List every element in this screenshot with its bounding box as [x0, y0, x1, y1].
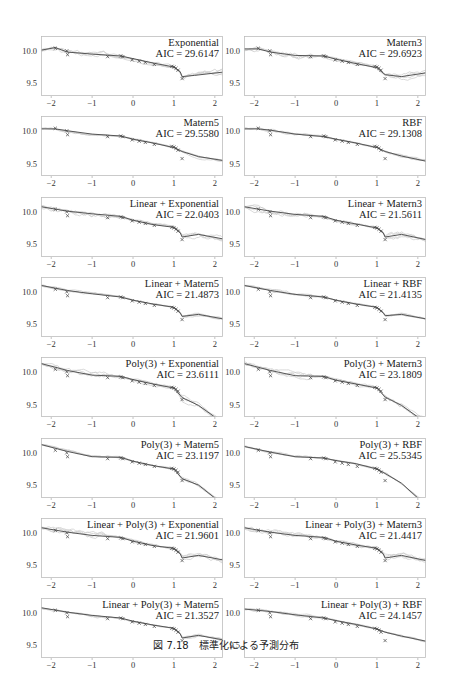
x-tick-label: 1: [166, 419, 182, 429]
panel-linear-poly-3-matern3: Linear + Poly(3) + Matern3AIC = 21.44179…: [244, 518, 426, 578]
observation-marker: [66, 294, 69, 297]
observation-marker: [309, 296, 312, 299]
aic-label: AIC = 23.1809: [359, 369, 422, 380]
aic-label: AIC = 24.1457: [359, 610, 422, 621]
x-tick-label: 1: [369, 500, 385, 510]
aic-label: AIC = 23.6111: [156, 369, 219, 380]
x-tick-label: 0: [125, 339, 141, 349]
x-tick-label: 0: [125, 580, 141, 590]
x-tick-label: −1: [287, 259, 303, 269]
panel-title: Matern3: [386, 37, 422, 48]
x-tick-label: −2: [246, 500, 262, 510]
y-tick-label: 10.0: [13, 608, 37, 618]
x-tick-label: 0: [125, 178, 141, 188]
observation-marker: [347, 462, 350, 465]
x-tick-label: 2: [207, 339, 223, 349]
observation-marker: [384, 478, 387, 481]
y-tick-label: 10.0: [13, 46, 37, 56]
panel-linear-matern3: Linear + Matern3AIC = 21.56119.510.0−2−1…: [244, 197, 426, 257]
y-tick-label: 9.5: [216, 159, 240, 169]
axes-frame: [245, 117, 426, 176]
aic-label: AIC = 21.5611: [359, 209, 422, 220]
x-tick-label: −2: [246, 580, 262, 590]
x-tick-label: −1: [84, 660, 100, 670]
x-tick-label: 0: [125, 259, 141, 269]
observation-marker: [309, 617, 312, 620]
observation-marker: [181, 157, 184, 160]
observation-marker: [106, 537, 109, 540]
y-tick-label: 10.0: [13, 448, 37, 458]
x-tick-label: −2: [43, 580, 59, 590]
x-tick-label: −1: [287, 98, 303, 108]
x-tick-label: 2: [410, 259, 426, 269]
observation-marker: [356, 464, 359, 467]
x-tick-label: 2: [410, 500, 426, 510]
y-tick-label: 9.5: [216, 480, 240, 490]
x-tick-label: 0: [328, 419, 344, 429]
x-tick-label: −1: [287, 660, 303, 670]
x-tick-label: −2: [43, 500, 59, 510]
observation-marker: [66, 133, 69, 136]
y-tick-label: 10.0: [216, 367, 240, 377]
aic-label: AIC = 21.9601: [156, 530, 219, 541]
panel-title: Poly(3) + Matern3: [344, 358, 422, 369]
x-tick-label: 0: [125, 500, 141, 510]
x-tick-label: 2: [207, 500, 223, 510]
x-tick-label: 2: [207, 419, 223, 429]
x-tick-label: −1: [84, 259, 100, 269]
observation-marker: [269, 214, 272, 217]
panel-linear-exponential: Linear + ExponentialAIC = 22.04039.510.0…: [41, 197, 223, 257]
observation-marker: [181, 559, 184, 562]
x-tick-label: 0: [125, 419, 141, 429]
observation-marker: [384, 77, 387, 80]
x-tick-label: 2: [410, 98, 426, 108]
x-tick-label: −2: [43, 259, 59, 269]
x-tick-label: 2: [410, 339, 426, 349]
x-tick-label: 1: [166, 580, 182, 590]
x-tick-label: −2: [43, 178, 59, 188]
panel-linear-rbf: Linear + RBFAIC = 21.41359.510.0−2−1012: [244, 277, 426, 337]
x-tick-label: 2: [207, 259, 223, 269]
observation-marker: [181, 238, 184, 241]
x-tick-label: −2: [246, 419, 262, 429]
panel-title: Linear + Matern3: [348, 198, 422, 209]
aic-label: AIC = 25.5345: [359, 450, 422, 461]
y-tick-label: 9.5: [216, 400, 240, 410]
x-tick-label: −2: [43, 98, 59, 108]
x-tick-label: 2: [207, 178, 223, 188]
x-tick-label: −2: [246, 98, 262, 108]
observation-marker: [66, 535, 69, 538]
panel-title: RBF: [402, 117, 422, 128]
y-tick-label: 10.0: [216, 207, 240, 217]
observation-marker: [384, 559, 387, 562]
aic-label: AIC = 29.6923: [359, 48, 422, 59]
x-tick-label: −1: [287, 419, 303, 429]
y-tick-label: 10.0: [13, 287, 37, 297]
x-tick-label: 0: [328, 178, 344, 188]
x-tick-label: 1: [369, 660, 385, 670]
y-tick-label: 10.0: [216, 608, 240, 618]
x-tick-label: −1: [84, 339, 100, 349]
y-tick-label: 9.5: [13, 319, 37, 329]
observation-marker: [384, 157, 387, 160]
x-tick-label: 1: [369, 259, 385, 269]
y-tick-label: 9.5: [216, 319, 240, 329]
panel-title: Poly(3) + RBF: [359, 439, 422, 450]
observation-marker: [269, 615, 272, 618]
plot-area: [244, 116, 426, 176]
x-tick-label: −2: [43, 339, 59, 349]
y-tick-label: 9.5: [13, 239, 37, 249]
y-tick-label: 10.0: [13, 126, 37, 136]
panel-poly-3-exponential: Poly(3) + ExponentialAIC = 23.61119.510.…: [41, 357, 223, 417]
aic-label: AIC = 21.3527: [156, 610, 219, 621]
x-tick-label: 0: [125, 98, 141, 108]
panel-title: Exponential: [168, 37, 219, 48]
observation-marker: [269, 535, 272, 538]
x-tick-label: −1: [287, 339, 303, 349]
x-tick-label: 0: [328, 98, 344, 108]
observation-marker: [309, 216, 312, 219]
aic-label: AIC = 22.0403: [156, 209, 219, 220]
x-tick-label: 0: [328, 660, 344, 670]
aic-label: AIC = 21.4417: [359, 530, 422, 541]
panel-title: Linear + Poly(3) + Exponential: [87, 519, 219, 530]
